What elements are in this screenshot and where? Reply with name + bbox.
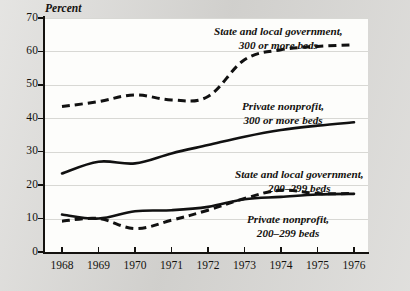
x-axis-tick-label: 1974 — [270, 259, 293, 271]
x-axis-tick — [207, 247, 209, 252]
series-label-line2: 200–299 beds — [235, 181, 364, 195]
y-axis-tick — [38, 17, 43, 19]
x-axis-line — [43, 252, 369, 254]
series-line-1 — [62, 122, 354, 173]
x-axis-tick — [244, 247, 246, 252]
x-axis-tick — [134, 247, 136, 252]
series-label-private-nonprofit-300: Private nonprofit, 300 or more beds — [242, 99, 324, 127]
y-axis-tick-label: 0 — [32, 245, 38, 257]
y-axis-tick-label: 40 — [26, 111, 38, 123]
x-axis-tick-label: 1971 — [160, 259, 183, 271]
y-axis-tick — [38, 251, 43, 253]
x-axis-tick-label: 1975 — [306, 259, 329, 271]
x-axis-tick — [280, 247, 282, 252]
x-axis-tick-label: 1969 — [87, 259, 110, 271]
x-axis-tick-label: 1973 — [233, 259, 256, 271]
x-axis-tick — [171, 247, 173, 252]
y-axis-tick — [38, 151, 43, 153]
series-label-private-nonprofit-200: Private nonprofit, 200–299 beds — [247, 212, 329, 240]
y-axis-tick-label: 60 — [26, 44, 38, 56]
series-label-line2: 300 or more beds — [214, 38, 343, 52]
x-axis-tick-label: 1970 — [124, 259, 147, 271]
series-line-0 — [62, 45, 354, 107]
x-axis-tick — [353, 247, 355, 252]
x-axis-tick — [317, 247, 319, 252]
y-axis-tick — [38, 184, 43, 186]
y-axis-tick — [38, 118, 43, 120]
y-axis-title: Percent — [45, 2, 81, 14]
series-label-line1: Private nonprofit, — [242, 100, 324, 112]
y-axis-tick-label: 30 — [26, 144, 38, 156]
chart-figure: Percent State and local government, 300 … — [0, 0, 410, 291]
x-axis-tick-label: 1976 — [343, 259, 366, 271]
y-axis-tick-label: 20 — [26, 178, 38, 190]
series-label-line2: 200–299 beds — [247, 226, 329, 240]
y-axis-tick-label: 70 — [26, 11, 38, 23]
series-label-line1: Private nonprofit, — [247, 213, 329, 225]
series-label-line2: 300 or more beds — [242, 113, 324, 127]
x-axis-tick-label: 1972 — [197, 259, 220, 271]
series-label-state-local-300: State and local government, 300 or more … — [214, 24, 343, 52]
series-label-line1: State and local government, — [214, 25, 343, 37]
series-label-line1: State and local government, — [235, 168, 364, 180]
y-axis-tick — [38, 218, 43, 220]
y-axis-tick — [38, 84, 43, 86]
series-label-state-local-200: State and local government, 200–299 beds — [235, 167, 364, 195]
y-axis-tick-label: 10 — [26, 211, 38, 223]
x-axis-tick — [98, 247, 100, 252]
x-axis-tick-label: 1968 — [51, 259, 74, 271]
x-axis-tick — [61, 247, 63, 252]
y-axis-tick — [38, 51, 43, 53]
y-axis-tick-label: 50 — [26, 77, 38, 89]
